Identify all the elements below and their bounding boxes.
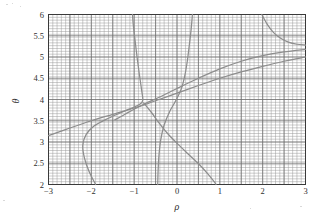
speckle: [300, 206, 302, 207]
x-tick-label: 1: [218, 186, 222, 196]
x-tick-label: 0: [175, 186, 179, 196]
y-axis-title: θ: [10, 98, 21, 103]
x-tick-label: 2: [261, 186, 265, 196]
speckle: [250, 208, 251, 209]
speckle: [12, 3, 13, 4]
y-tick-label: 2.5: [33, 158, 44, 168]
x-tick-label: −2: [87, 186, 96, 196]
x-axis-title: ρ: [174, 201, 180, 212]
x-tick-label: −3: [44, 186, 53, 196]
y-tick-label: 3.5: [33, 116, 44, 126]
contour-plot-svg: −3−2−10123 22.533.544.555.56 ρ θ: [0, 0, 319, 216]
y-tick-label: 5.5: [33, 31, 44, 41]
figure-container: −3−2−10123 22.533.544.555.56 ρ θ: [0, 0, 319, 216]
y-tick-label: 4.5: [33, 73, 44, 83]
y-tick-label: 5: [40, 52, 44, 62]
speckle: [6, 4, 8, 5]
speckle: [20, 6, 21, 7]
x-tick-label: −1: [130, 186, 139, 196]
y-tick-label: 2: [40, 180, 44, 190]
speckle: [3, 200, 5, 201]
y-tick-label: 6: [40, 10, 44, 20]
x-tick-label: 3: [303, 186, 307, 196]
y-tick-label: 3: [40, 137, 44, 147]
